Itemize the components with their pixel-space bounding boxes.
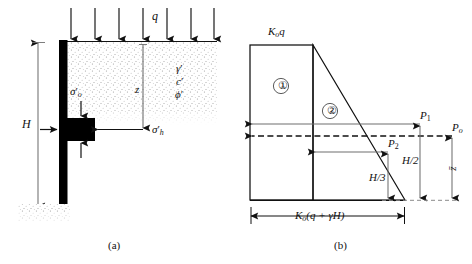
vertical-stress-label: σ′o	[70, 86, 82, 99]
retaining-wall-stem	[59, 40, 68, 208]
dim-h-over-2-label: H/2	[402, 155, 419, 166]
soil-param-prime: ′	[180, 62, 182, 74]
dim-zbar-label: z̄	[447, 166, 458, 170]
vertical-stress-subscript: o	[78, 90, 82, 99]
soil-stipple-region	[67, 41, 217, 125]
wall-height-label: H	[22, 118, 31, 130]
horizontal-stress-subscript: h	[160, 128, 164, 137]
pressure-triangle-region	[313, 45, 405, 200]
force-po-symbol: P	[452, 121, 459, 133]
panel-b-caption: (b)	[334, 240, 347, 251]
force-p2-symbol: P	[388, 137, 395, 149]
dim-h-over-3-label: H/3	[369, 172, 386, 183]
region-two-label: ②	[327, 105, 337, 116]
soil-element-block	[67, 118, 95, 141]
figure-root: q H z σ′o σ′h γ′ c′ ϕ′ (a) Koq ① ② P1 Po…	[0, 0, 472, 264]
panel-a-group	[18, 8, 217, 224]
top-pressure-label: Koq	[268, 26, 285, 39]
force-p1-label: P1	[420, 110, 431, 123]
force-p2-label: P2	[388, 138, 399, 151]
soil-param-friction-angle: ϕ′	[175, 89, 183, 100]
foundation-soil-stipple	[18, 204, 70, 224]
panel-a-caption: (a)	[108, 240, 120, 251]
force-po-label: Po	[452, 122, 463, 135]
horizontal-stress-label: σ′h	[152, 124, 164, 137]
force-po-subscript: o	[459, 126, 463, 135]
soil-param-unit-weight: γ′	[176, 63, 183, 74]
bottom-pressure-expression: (q + γH)	[306, 209, 344, 221]
force-p2-subscript: 2	[395, 142, 399, 151]
force-p1-symbol: P	[420, 109, 427, 121]
region-one-label: ①	[278, 80, 288, 91]
pressure-rectangle-region	[250, 45, 313, 200]
panel-b-group	[250, 45, 458, 224]
soil-param-cohesion: c′	[176, 76, 183, 87]
soil-param-prime: ′	[181, 75, 183, 87]
force-p1-subscript: 1	[427, 114, 431, 123]
depth-label: z	[135, 84, 139, 95]
soil-param-prime: ′	[181, 88, 183, 100]
surcharge-label: q	[152, 10, 158, 22]
figure-drawing	[0, 0, 472, 264]
bottom-pressure-label: Ko(q + γH)	[295, 210, 344, 223]
top-pressure-q: q	[279, 25, 285, 37]
surcharge-arrow-group	[71, 8, 214, 39]
